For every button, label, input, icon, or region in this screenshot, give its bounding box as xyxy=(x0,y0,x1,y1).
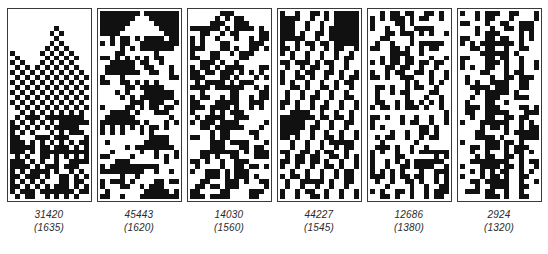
panel-caption: 2924 (1320) xyxy=(484,208,514,234)
pattern-panel-6[interactable] xyxy=(457,8,542,202)
panel-caption: 45443 (1620) xyxy=(124,208,154,234)
panel-generation-label: (1320) xyxy=(484,221,514,234)
panel-caption: 31420 (1635) xyxy=(34,208,64,234)
panel-fitness-label: 44227 xyxy=(304,208,334,221)
panel-generation-label: (1620) xyxy=(124,221,154,234)
panel-fitness-label: 2924 xyxy=(484,208,514,221)
panel-generation-label: (1380) xyxy=(394,221,424,234)
pattern-panel-4[interactable] xyxy=(277,8,362,202)
panel-generation-label: (1635) xyxy=(34,221,64,234)
pattern-panel-2[interactable] xyxy=(97,8,182,202)
panel-cell: 14030 (1560) xyxy=(187,8,272,234)
panel-caption: 12686 (1380) xyxy=(394,208,424,234)
pattern-canvas xyxy=(100,11,179,199)
panel-row: 31420 (1635) 45443 (1620) 14030 (1560) xyxy=(0,0,548,254)
panel-fitness-label: 45443 xyxy=(124,208,154,221)
pattern-canvas xyxy=(370,11,449,199)
panel-caption: 44227 (1545) xyxy=(304,208,334,234)
pattern-panel-3[interactable] xyxy=(187,8,272,202)
figure-root: 31420 (1635) 45443 (1620) 14030 (1560) xyxy=(0,0,548,254)
panel-cell: 31420 (1635) xyxy=(7,8,92,234)
panel-fitness-label: 12686 xyxy=(394,208,424,221)
pattern-panel-1[interactable] xyxy=(7,8,92,202)
panel-cell: 44227 (1545) xyxy=(277,8,362,234)
pattern-panel-5[interactable] xyxy=(367,8,452,202)
panel-fitness-label: 14030 xyxy=(214,208,244,221)
panel-cell: 12686 (1380) xyxy=(367,8,452,234)
pattern-canvas xyxy=(190,11,269,199)
pattern-canvas xyxy=(460,11,539,199)
pattern-canvas xyxy=(10,11,89,199)
panel-cell: 2924 (1320) xyxy=(457,8,542,234)
pattern-canvas xyxy=(280,11,359,199)
panel-caption: 14030 (1560) xyxy=(214,208,244,234)
panel-generation-label: (1560) xyxy=(214,221,244,234)
panel-generation-label: (1545) xyxy=(304,221,334,234)
panel-fitness-label: 31420 xyxy=(34,208,64,221)
panel-cell: 45443 (1620) xyxy=(97,8,182,234)
